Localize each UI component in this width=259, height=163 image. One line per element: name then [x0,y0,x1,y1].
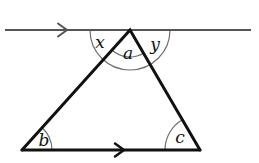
geometry-figure: xaybc [0,0,259,163]
angle-label-y: y [149,34,160,54]
angle-label-b: b [39,130,50,150]
angle-label-a: a [123,43,133,63]
geometry-diagram-canvas: xaybc [0,0,259,163]
angle-label-x: x [95,32,105,52]
angle-label-c: c [175,127,185,147]
